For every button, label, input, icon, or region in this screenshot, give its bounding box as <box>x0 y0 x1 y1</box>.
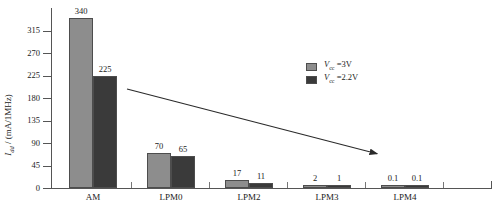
bar-value-label: 11 <box>243 172 279 181</box>
legend-label-series-1: Vcc =2.2V <box>324 72 358 87</box>
y-axis-tick-label: 225 <box>14 71 40 80</box>
y-axis-tick <box>43 121 51 122</box>
bar-value-label: 0.1 <box>399 174 435 183</box>
bar-lpm4-series-1 <box>405 185 429 188</box>
bar-value-label: 225 <box>87 65 123 74</box>
x-axis-tick <box>131 182 132 188</box>
y-axis-tick-label: 135 <box>14 116 40 125</box>
bar-lpm3-series-1 <box>327 185 351 188</box>
x-axis-tick <box>287 182 288 188</box>
y-axis-tick-label: 90 <box>14 139 40 148</box>
y-axis-tick <box>43 53 51 54</box>
x-axis-tick <box>209 182 210 188</box>
x-axis-label-am: AM <box>63 192 123 202</box>
legend-item-vcc-3v: Vcc =3V <box>306 60 358 73</box>
plot-area: 34022570651711210.10.1 <box>51 8 492 188</box>
y-axis-tick <box>43 166 51 167</box>
legend-swatch-icon-series-0 <box>306 63 317 71</box>
bar-value-label: 65 <box>165 145 201 154</box>
legend-item-vcc-2p2v: Vcc =2.2V <box>306 73 358 86</box>
bar-lpm0-series-1 <box>171 156 195 189</box>
legend-series-1-value: =2.2V <box>335 72 359 82</box>
y-axis-tick-label: 270 <box>14 49 40 58</box>
y-axis-tick <box>43 143 51 144</box>
y-axis-tick-label: 180 <box>14 94 40 103</box>
y-axis-tick <box>43 76 51 77</box>
y-axis-tick <box>43 31 51 32</box>
bar-value-label: 1 <box>321 174 357 183</box>
legend-series-0-value: =3V <box>335 59 352 69</box>
current-consumption-bar-chart: Idd / (mA/1MHz) 04590135180225270315 340… <box>0 0 504 220</box>
x-axis-label-lpm0: LPM0 <box>141 192 201 202</box>
bar-am-series-1 <box>93 76 117 189</box>
bar-am-series-0 <box>69 18 93 188</box>
bar-lpm3-series-0 <box>303 185 327 188</box>
x-axis-line <box>51 188 492 189</box>
bar-lpm2-series-1 <box>249 183 273 189</box>
x-axis-tick <box>443 182 444 188</box>
x-axis-tick <box>365 182 366 188</box>
bar-lpm2-series-0 <box>225 180 249 189</box>
bar-lpm0-series-0 <box>147 153 171 188</box>
x-axis-label-lpm3: LPM3 <box>297 192 357 202</box>
legend: Vcc =3V Vcc =2.2V <box>306 60 358 86</box>
bar-value-label: 340 <box>63 7 99 16</box>
y-axis-title-symbol: I <box>3 153 13 156</box>
bar-lpm4-series-0 <box>381 185 405 188</box>
y-axis-tick <box>43 98 51 99</box>
x-axis-label-lpm4: LPM4 <box>375 192 435 202</box>
y-axis-tick-label: 315 <box>14 26 40 35</box>
y-axis-tick-label: 0 <box>14 184 40 193</box>
y-axis-title-unit: / (mA/1MHz) <box>3 94 13 146</box>
x-axis-label-lpm2: LPM2 <box>219 192 279 202</box>
y-axis-tick-label: 45 <box>14 161 40 170</box>
legend-swatch-icon-series-1 <box>306 76 317 84</box>
y-axis-tick <box>43 188 51 189</box>
